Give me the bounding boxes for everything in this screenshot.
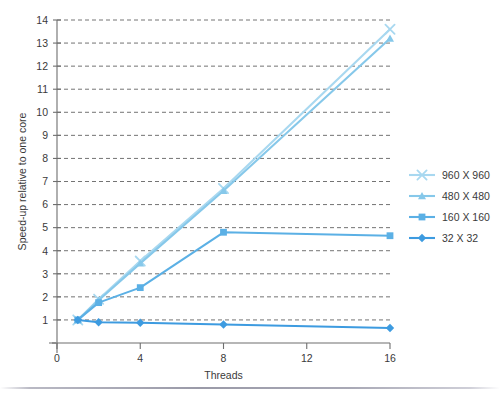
y-tick-label: 9 [42,129,48,141]
legend-item[interactable]: 960 X 960 [409,169,490,181]
y-tick-label: 1 [42,314,48,326]
page-bottom-rule [0,387,500,389]
legend: 960 X 960480 X 480160 X 16032 X 32 [409,169,490,244]
data-point-marker [386,34,394,41]
gridlines [57,20,390,320]
legend-marker [419,214,426,221]
data-point-marker [386,324,394,332]
x-tick-label: 12 [301,352,313,364]
data-point-marker [137,284,144,291]
x-tick-label: 0 [54,352,60,364]
x-tick-label: 16 [384,352,396,364]
y-axis: 1234567891011121314 [36,14,61,353]
data-point-marker [94,318,102,326]
series-line [78,320,390,328]
x-tick-label: 8 [221,352,227,364]
y-tick-label: 13 [36,37,48,49]
legend-label: 160 X 160 [442,211,490,223]
legend-label: 32 X 32 [442,232,478,244]
x-tick-label: 4 [137,352,143,364]
y-tick-label: 4 [42,245,48,257]
data-point-marker [387,232,394,239]
legend-item[interactable]: 32 X 32 [409,232,478,244]
y-tick-label: 6 [42,198,48,210]
data-point-marker [95,299,102,306]
series-4 [74,316,395,332]
legend-label: 480 X 480 [442,190,490,202]
data-point-marker [220,229,227,236]
y-axis-title: Speed-up relative to one core [16,112,28,250]
y-tick-label: 2 [42,291,48,303]
y-tick-label: 5 [42,221,48,233]
chart-figure: 12345678910111213140481216ThreadsSpeed-u… [0,0,500,393]
y-tick-label: 7 [42,175,48,187]
legend-label: 960 X 960 [442,169,490,181]
y-tick-label: 14 [36,14,48,26]
line-chart: 12345678910111213140481216ThreadsSpeed-u… [0,0,500,393]
x-axis: 0481216 [49,343,396,364]
y-tick-label: 11 [37,83,48,95]
data-point-marker [219,320,227,328]
series-3 [74,229,393,323]
x-axis-title: Threads [204,369,243,381]
legend-item[interactable]: 480 X 480 [409,190,490,202]
y-tick-label: 8 [42,152,48,164]
legend-item[interactable]: 160 X 160 [409,211,490,223]
y-tick-label: 10 [36,106,48,118]
legend-marker [418,234,426,242]
y-tick-label: 12 [36,60,48,72]
data-point-marker [385,25,394,34]
y-tick-label: 3 [42,268,48,280]
